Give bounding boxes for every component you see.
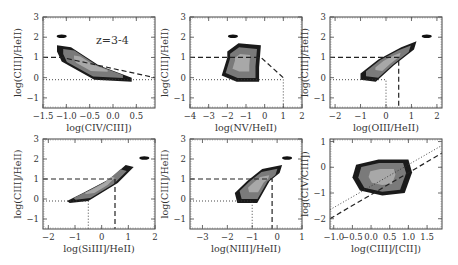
x-tick-label: 0 <box>262 111 267 121</box>
y-tick-label: 1 <box>34 52 39 62</box>
y-tick-label: 0 <box>321 162 326 172</box>
x-axis-label: log(NV/HeII) <box>215 122 277 133</box>
y-tick-label: −1 <box>26 214 39 224</box>
y-axis-label: log(CIII]/HeII) <box>159 149 170 218</box>
x-tick-label: −1.0 <box>56 111 77 121</box>
y-axis-label: log(CIII]/HeII) <box>299 28 310 97</box>
y-tick-label: 3 <box>34 12 39 22</box>
x-tick-label: 1 <box>281 111 286 121</box>
x-tick-label: −1 <box>354 111 367 121</box>
panel-top-middle: −4−3−2−1012−10123log(NV/HeII)log(CIII]/H… <box>159 12 305 133</box>
y-tick-label: 3 <box>181 134 186 144</box>
panel-bottom-middle: −3−2−101−10123log(NIII]/HeII)log(CIII]/H… <box>159 134 305 254</box>
isolated-blob <box>139 156 149 160</box>
y-tick-label: −1 <box>26 93 39 103</box>
x-tick-label: −2 <box>42 232 55 242</box>
x-axis-label: log(OIII/HeII) <box>353 122 419 133</box>
panel-bottom-right: −1.0−0.50.00.51.01.5−2−101log(CIII]/[CII… <box>299 137 442 254</box>
x-tick-label: −0.5 <box>342 232 363 242</box>
panel-bottom-left: −2−1012−10123log(SiIII]/HeII)log(CIII]/H… <box>12 134 158 254</box>
y-tick-label: 3 <box>321 12 326 22</box>
y-tick-label: 1 <box>181 174 186 184</box>
density-region-mid <box>74 169 127 199</box>
x-tick-label: −3 <box>196 232 209 242</box>
dotted-line <box>190 80 283 108</box>
y-tick-label: 2 <box>181 32 186 42</box>
redshift-annotation: z=3-4 <box>96 34 129 47</box>
dotted-line <box>190 201 252 229</box>
x-tick-label: 1.0 <box>402 232 416 242</box>
y-axis-label: log(CIII]/HeII) <box>159 28 170 97</box>
x-tick-label: −4 <box>184 111 197 121</box>
y-tick-label: 2 <box>34 32 39 42</box>
x-tick-label: 0.0 <box>364 232 378 242</box>
x-tick-label: −1 <box>240 111 253 121</box>
x-tick-label: 0.5 <box>383 232 397 242</box>
x-tick-label: 1.5 <box>420 232 434 242</box>
x-tick-label: −2 <box>221 232 234 242</box>
y-tick-label: 3 <box>34 134 39 144</box>
density-region-core <box>369 169 396 185</box>
y-tick-label: 1 <box>321 52 326 62</box>
x-tick-label: −1.5 <box>33 111 54 121</box>
x-tick-label: 1 <box>409 111 414 121</box>
x-tick-label: −1 <box>246 232 259 242</box>
x-tick-label: −0.5 <box>79 111 100 121</box>
y-tick-label: 2 <box>181 154 186 164</box>
x-axis-label: log(CIII]/[CII]) <box>351 243 421 254</box>
y-axis-label: log(CIII]/HeII) <box>12 149 23 218</box>
y-tick-label: −2 <box>313 214 326 224</box>
x-axis-label: log(CIV/CIII]) <box>66 122 132 133</box>
isolated-blob <box>282 156 292 160</box>
isolated-blob <box>57 34 67 38</box>
y-tick-label: 0 <box>181 73 186 83</box>
x-tick-label: 0 <box>383 111 388 121</box>
y-tick-label: 0 <box>321 73 326 83</box>
dotted-line <box>330 80 386 108</box>
x-tick-label: 0 <box>99 232 104 242</box>
dotted-line <box>43 201 88 229</box>
x-tick-label: 1 <box>126 232 131 242</box>
x-tick-label: 1 <box>299 232 304 242</box>
y-tick-label: 1 <box>181 52 186 62</box>
y-tick-label: −1 <box>173 93 186 103</box>
x-axis-label: log(SiIII]/HeII) <box>63 243 134 254</box>
y-tick-label: 2 <box>321 32 326 42</box>
x-tick-label: 0.5 <box>130 111 144 121</box>
x-tick-label: −2 <box>221 111 234 121</box>
panel-top-left: −1.5−1.0−0.50.00.5−10123log(CIV/CIII])lo… <box>12 12 155 133</box>
x-tick-label: −1 <box>69 232 82 242</box>
panel-top-right: −2−1012−10123log(OIII/HeII)log(CIII]/HeI… <box>299 12 442 133</box>
x-tick-label: −3 <box>202 111 215 121</box>
x-axis-label: log(NIII]/HeII) <box>211 243 281 254</box>
x-tick-label: 2 <box>152 232 157 242</box>
y-tick-label: −1 <box>313 93 326 103</box>
y-axis-label: log(CIV/CIII]) <box>299 151 310 217</box>
y-tick-label: −1 <box>313 188 326 198</box>
y-tick-label: 1 <box>321 137 326 147</box>
x-tick-label: −1.0 <box>323 232 344 242</box>
y-tick-label: 0 <box>34 194 39 204</box>
density-region-mid <box>63 49 123 78</box>
figure: −1.5−1.0−0.50.00.5−10123log(CIV/CIII])lo… <box>0 0 458 265</box>
x-tick-label: 2 <box>299 111 304 121</box>
y-tick-label: 3 <box>181 12 186 22</box>
y-tick-label: −1 <box>173 214 186 224</box>
x-tick-label: −2 <box>329 111 342 121</box>
y-tick-label: 0 <box>181 194 186 204</box>
y-tick-label: 2 <box>34 154 39 164</box>
isolated-blob <box>228 34 238 38</box>
x-tick-label: 0.0 <box>106 111 120 121</box>
plot-frame <box>43 139 155 229</box>
x-tick-label: 0 <box>274 232 279 242</box>
y-axis-label: log(CIII]/HeII) <box>12 28 23 97</box>
x-tick-label: 2 <box>434 111 439 121</box>
isolated-blob <box>422 34 432 38</box>
y-tick-label: 0 <box>34 73 39 83</box>
y-tick-label: 1 <box>34 174 39 184</box>
plot-frame <box>43 17 155 108</box>
